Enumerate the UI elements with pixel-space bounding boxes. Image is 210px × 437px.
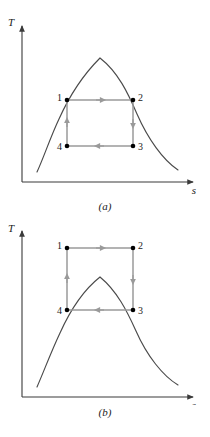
state-point-1-b — [65, 246, 70, 251]
state-point-1-a — [65, 98, 70, 103]
y-axis-label-b: T — [8, 222, 15, 234]
saturation-dome-curve-b — [37, 277, 178, 387]
state-label-2-a: 2 — [138, 92, 143, 103]
state-label-4-a: 4 — [57, 141, 62, 152]
state-label-1-b: 1 — [57, 240, 62, 251]
state-point-3-b — [131, 308, 136, 313]
chart-a: T s 1 2 3 4 — [0, 0, 210, 200]
state-point-4-a — [65, 144, 70, 149]
state-point-2-a — [131, 98, 136, 103]
saturation-dome-curve-a — [37, 58, 178, 172]
carnot-cycle-b — [67, 248, 133, 310]
state-label-2-b: 2 — [138, 240, 143, 251]
state-label-3-b: 3 — [138, 305, 143, 316]
figure-a: T s 1 2 3 4 (a) — [0, 0, 210, 220]
state-label-4-b: 4 — [57, 305, 62, 316]
state-label-3-a: 3 — [138, 141, 143, 152]
carnot-cycle-a — [67, 100, 133, 146]
x-axis-label-b: s — [192, 399, 196, 405]
state-label-1-a: 1 — [57, 92, 62, 103]
state-point-4-b — [65, 308, 70, 313]
figure-b: T s 1 2 3 4 (b) — [0, 215, 210, 437]
figure-caption-b: (b) — [0, 405, 210, 419]
chart-b: T s 1 2 3 4 — [0, 215, 210, 405]
state-point-3-a — [131, 144, 136, 149]
state-point-2-b — [131, 246, 136, 251]
y-axis-label-a: T — [8, 16, 15, 28]
figure-caption-a: (a) — [0, 199, 210, 213]
x-axis-label-a: s — [192, 184, 196, 196]
